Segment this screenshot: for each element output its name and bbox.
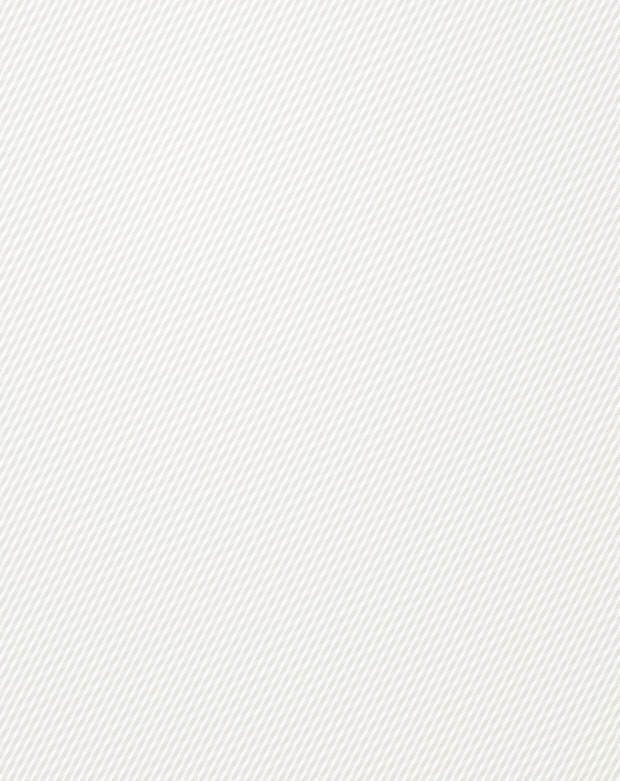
poverty-bar-chart: [0, 0, 620, 781]
chart-legend: [521, 22, 547, 102]
legend-item-poor: [521, 62, 547, 88]
legend-swatch-poor: [521, 68, 538, 83]
legend-swatch-all: [521, 28, 538, 43]
legend-item-all: [521, 22, 547, 48]
